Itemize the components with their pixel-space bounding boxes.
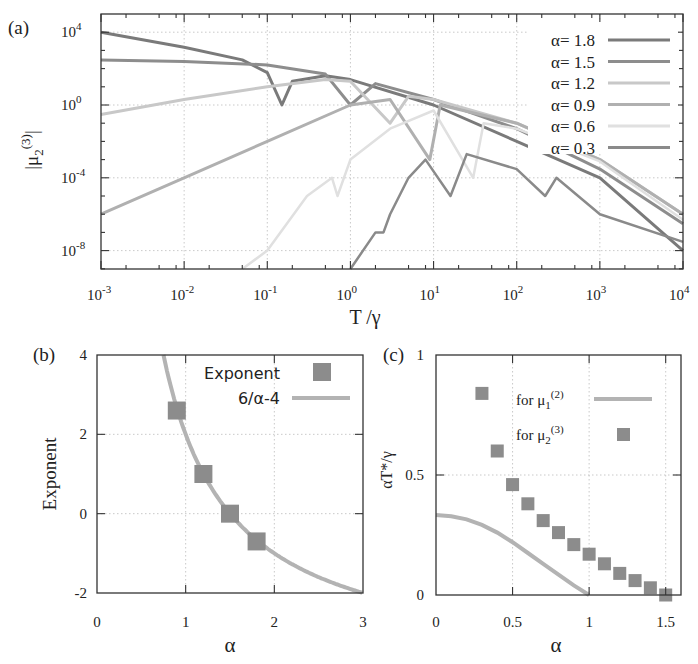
y-tick-label: 0 bbox=[80, 506, 88, 522]
y-axis-label: Exponent bbox=[39, 437, 60, 511]
data-point-marker bbox=[194, 465, 212, 483]
y-axis-label: αT*/γ bbox=[378, 451, 396, 489]
data-point-marker bbox=[475, 387, 488, 400]
plot-frame bbox=[97, 355, 363, 593]
y-tick-label: 10-4 bbox=[61, 166, 86, 186]
x-axis-label: α bbox=[550, 633, 561, 657]
data-point-marker bbox=[491, 445, 504, 458]
data-point-marker bbox=[521, 497, 534, 510]
y-tick-label: 4 bbox=[80, 347, 88, 363]
y-tick-label: 1 bbox=[417, 347, 425, 363]
x-tick-label: 0 bbox=[93, 614, 101, 630]
legend-label: 6/α-4 bbox=[238, 389, 280, 408]
y-tick-label: 100 bbox=[61, 93, 82, 113]
data-point-marker bbox=[613, 567, 626, 580]
x-tick-label: 102 bbox=[503, 283, 524, 303]
y-tick-label: 0 bbox=[417, 587, 425, 603]
legend-label: α= 0.9 bbox=[551, 96, 595, 115]
legend-label: for μ2(3) bbox=[516, 423, 564, 446]
x-tick-label: 101 bbox=[420, 283, 441, 303]
legend-swatch bbox=[617, 428, 630, 441]
panel-label-c: (c) bbox=[383, 344, 404, 366]
panel-c: 00.511.500.51ααT*/γ(c)for μ1(2)for μ2(3) bbox=[378, 344, 681, 657]
legend-label: α= 1.5 bbox=[551, 53, 595, 72]
x-tick-label: 1 bbox=[182, 614, 190, 630]
panel-b: 0123-2024αExponent(b)Exponent6/α-4 bbox=[33, 344, 367, 657]
x-axis-label: α bbox=[224, 633, 235, 657]
x-tick-label: 10-3 bbox=[87, 283, 112, 303]
data-point-marker bbox=[168, 402, 186, 420]
legend-label: Exponent bbox=[204, 364, 280, 383]
figure: 10-310-210-110010110210310410410010-410-… bbox=[0, 0, 698, 664]
panel-label-a: (a) bbox=[8, 17, 29, 39]
panel-a: 10-310-210-110010110210310410410010-410-… bbox=[8, 14, 690, 329]
legend: Exponent6/α-4 bbox=[204, 363, 350, 408]
data-point-marker bbox=[644, 581, 657, 594]
legend: for μ1(2)for μ2(3) bbox=[516, 388, 652, 446]
x-tick-label: 1 bbox=[585, 614, 593, 630]
data-point-marker bbox=[506, 478, 519, 491]
y-tick-label: 104 bbox=[61, 20, 82, 40]
y-tick-label: -2 bbox=[75, 585, 88, 601]
legend-label: α= 0.6 bbox=[551, 117, 595, 136]
data-point-marker bbox=[583, 548, 596, 561]
x-tick-label: 1.5 bbox=[656, 614, 675, 630]
data-point-marker bbox=[537, 514, 550, 527]
y-tick-label: 0.5 bbox=[405, 467, 424, 483]
x-tick-label: 10-1 bbox=[253, 283, 277, 303]
legend-swatch bbox=[313, 363, 331, 381]
data-point-marker bbox=[221, 505, 239, 523]
legend-label: α= 0.3 bbox=[551, 139, 595, 158]
data-point-marker bbox=[567, 538, 580, 551]
x-axis-label: T /γ bbox=[349, 306, 380, 329]
x-tick-label: 2 bbox=[271, 614, 279, 630]
legend-label: α= 1.8 bbox=[551, 31, 595, 50]
legend: α= 1.8α= 1.5α= 1.2α= 0.9α= 0.6α= 0.3 bbox=[528, 22, 678, 158]
legend-label: for μ1(2) bbox=[516, 388, 564, 411]
x-tick-label: 10-2 bbox=[170, 283, 194, 303]
y-tick-label: 10-8 bbox=[61, 239, 86, 259]
x-tick-label: 0 bbox=[432, 614, 440, 630]
data-point-marker bbox=[598, 557, 611, 570]
x-tick-label: 3 bbox=[359, 614, 367, 630]
y-tick-label: 2 bbox=[80, 426, 88, 442]
legend-label: α= 1.2 bbox=[551, 74, 595, 93]
x-tick-label: 0.5 bbox=[503, 614, 522, 630]
x-tick-label: 100 bbox=[336, 283, 357, 303]
y-axis-label: |μ2(3)| bbox=[18, 130, 46, 169]
panel-label-b: (b) bbox=[33, 344, 55, 366]
data-point-marker bbox=[629, 574, 642, 587]
x-tick-label: 104 bbox=[669, 283, 690, 303]
data-point-marker bbox=[248, 532, 266, 550]
x-tick-label: 103 bbox=[586, 283, 607, 303]
data-point-marker bbox=[552, 526, 565, 539]
